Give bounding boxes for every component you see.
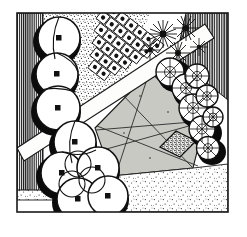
feature-tree-row-west bbox=[31, 17, 81, 136]
plan-content bbox=[17, 0, 228, 226]
garden-plan-drawing: Garden Plan Illustration bbox=[0, 0, 247, 237]
illustration-stage: Garden Plan Illustration bbox=[0, 0, 247, 237]
